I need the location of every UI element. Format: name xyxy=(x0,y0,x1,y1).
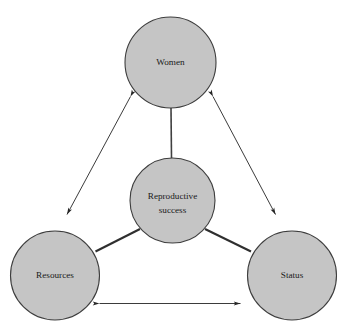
node-resources[interactable]: Resources xyxy=(11,231,100,320)
node-reproductive-success-label-line2: success xyxy=(159,205,187,215)
diagram-canvas: Women Resources Status Reproductive succ… xyxy=(0,0,346,334)
node-reproductive-success-label-line1: Reproductive xyxy=(148,191,198,201)
node-women[interactable]: Women xyxy=(125,17,216,108)
spoke-reproductive-to-women xyxy=(171,108,172,158)
node-resources-label: Resources xyxy=(36,270,74,280)
node-status-label: Status xyxy=(281,270,304,280)
spoke-reproductive-to-resources xyxy=(96,229,141,252)
diagram-svg: Women Resources Status Reproductive succ… xyxy=(0,0,346,334)
arrow-women-resources xyxy=(67,97,131,215)
node-status[interactable]: Status xyxy=(248,231,337,320)
spoke-reproductive-to-status xyxy=(205,229,251,252)
node-women-label: Women xyxy=(156,57,185,67)
node-reproductive-success[interactable]: Reproductive success xyxy=(130,158,215,243)
arrow-women-status xyxy=(213,97,276,215)
